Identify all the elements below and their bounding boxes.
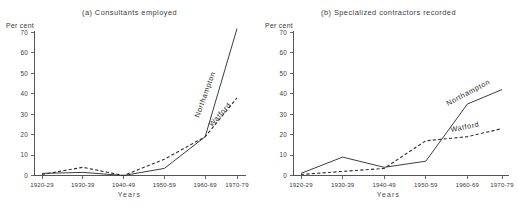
panel-a-series-watford [42, 98, 237, 176]
chart-panel-a: (a) Consultants employed Per cent Years … [0, 0, 259, 207]
panel-a-series-northampton [42, 29, 237, 176]
panel-b-series-watford [301, 129, 502, 175]
panel-b-y-ticks [290, 32, 294, 175]
panel-a-x-tick-labels: 1920-29 1930-39 1940-49 1950-59 1960-69 … [30, 181, 249, 188]
panel-b-series-northampton [301, 90, 502, 174]
panel-a-ytick-70: 70 [21, 29, 29, 36]
panel-a-xtick-1950-59: 1950-59 [153, 181, 177, 188]
panel-b-x-ticks [301, 176, 502, 180]
panel-a-y-tick-labels: 0 10 20 30 40 50 60 70 [21, 29, 29, 179]
panel-b-xtick-1940-49: 1940-49 [372, 181, 396, 188]
panel-a-axes [35, 31, 247, 176]
panel-a-ytick-50: 50 [21, 70, 29, 77]
panel-b-xtick-1950-59: 1950-59 [414, 181, 438, 188]
panel-b-axes [294, 31, 510, 176]
panel-a-label-northampton: Northampton [192, 70, 217, 118]
panel-b-plot: 0 10 20 30 40 50 60 70 1920-29 1930-39 [259, 0, 518, 207]
panel-a-ytick-0: 0 [24, 172, 28, 179]
panel-a-y-ticks [31, 32, 35, 175]
panel-a-ytick-30: 30 [21, 111, 29, 118]
panel-b-x-tick-labels: 1920-29 1930-39 1940-49 1950-59 1960-69 … [289, 181, 514, 188]
panel-b-ytick-50: 50 [280, 70, 288, 77]
panel-b-ytick-30: 30 [280, 111, 288, 118]
panel-b-ytick-20: 20 [280, 131, 288, 138]
panel-a-x-ticks [42, 176, 237, 180]
panel-b-ytick-70: 70 [280, 29, 288, 36]
panel-a-xtick-1960-69: 1960-69 [193, 181, 217, 188]
panel-a-ytick-10: 10 [21, 151, 29, 158]
panel-a-plot: 0 10 20 30 40 50 60 70 1920-29 1930-39 [0, 0, 259, 207]
panel-b-xtick-1920-29: 1920-29 [289, 181, 313, 188]
panel-b-ytick-40: 40 [280, 90, 288, 97]
chart-panel-b: (b) Specialized contractors recorded Per… [259, 0, 518, 207]
figure-container: (a) Consultants employed Per cent Years … [0, 0, 518, 207]
panel-b-ytick-60: 60 [280, 49, 288, 56]
panel-a-ytick-40: 40 [21, 90, 29, 97]
panel-b-ytick-10: 10 [280, 151, 288, 158]
panel-b-ytick-0: 0 [283, 172, 287, 179]
panel-a-ytick-20: 20 [21, 131, 29, 138]
panel-a-label-watford: Watford [207, 101, 233, 129]
panel-a-xtick-1920-29: 1920-29 [30, 181, 54, 188]
panel-b-xtick-1930-39: 1930-39 [331, 181, 355, 188]
panel-a-xtick-1970-79: 1970-79 [225, 181, 249, 188]
panel-a-xtick-1930-39: 1930-39 [71, 181, 95, 188]
panel-b-label-northampton: Northampton [445, 77, 492, 108]
panel-a-xtick-1940-49: 1940-49 [112, 181, 136, 188]
panel-b-xtick-1970-79: 1970-79 [490, 181, 514, 188]
panel-b-xtick-1960-69: 1960-69 [456, 181, 480, 188]
panel-b-y-tick-labels: 0 10 20 30 40 50 60 70 [280, 29, 288, 179]
panel-a-ytick-60: 60 [21, 49, 29, 56]
